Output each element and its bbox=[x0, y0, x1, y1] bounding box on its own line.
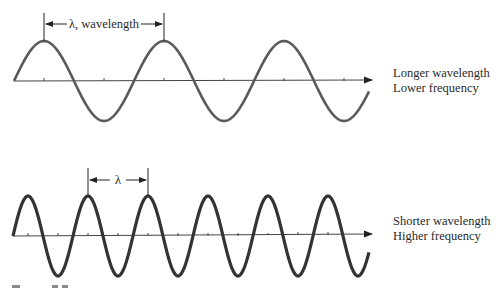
top-wave-panel: λ, wavelength bbox=[14, 13, 372, 121]
top-caption: Longer wavelength Lower frequency bbox=[393, 66, 490, 96]
bottom-caption-line1: Shorter wavelength bbox=[393, 214, 491, 229]
top-caption-line2: Lower frequency bbox=[393, 81, 490, 96]
bottom-dimension-label: λ bbox=[115, 173, 121, 187]
bottom-caption: Shorter wavelength Higher frequency bbox=[393, 214, 491, 244]
bottom-caption-line2: Higher frequency bbox=[393, 229, 491, 244]
top-dimension-label: λ, wavelength bbox=[69, 17, 140, 31]
top-caption-line1: Longer wavelength bbox=[393, 66, 490, 81]
bottom-wave-panel: λ bbox=[13, 168, 372, 276]
wavelength-diagram: λ, wavelength bbox=[0, 0, 496, 288]
